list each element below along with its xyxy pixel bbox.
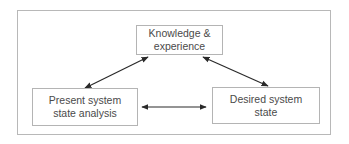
node-label-line: experience: [149, 40, 211, 53]
arrow-knowledge-present: [85, 57, 148, 88]
node-present-system-state-analysis: Present system state analysis: [32, 88, 138, 126]
node-label-line: Knowledge &: [149, 27, 211, 40]
node-label-line: Desired system: [230, 93, 302, 106]
node-knowledge-experience: Knowledge & experience: [136, 25, 223, 55]
node-desired-system-state: Desired system state: [212, 87, 320, 124]
arrow-knowledge-desired: [203, 57, 268, 86]
node-label-line: Present system: [49, 94, 121, 107]
node-label-line: state: [230, 106, 302, 119]
node-label-line: state analysis: [49, 107, 121, 120]
